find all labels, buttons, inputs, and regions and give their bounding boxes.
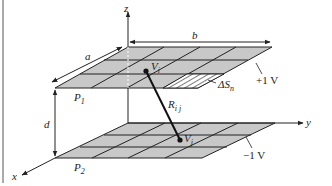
dimension-b-label: b <box>192 29 198 41</box>
plate-p2-label: P2 <box>73 161 85 176</box>
point-vi <box>143 68 148 73</box>
point-vj <box>177 137 182 142</box>
dimension-a-label: a <box>85 50 91 62</box>
z-axis-label: z <box>123 2 129 14</box>
top-potential-label: +1 V <box>256 74 278 86</box>
bottom-plate <box>55 123 275 158</box>
dimension-d-label: d <box>44 118 50 130</box>
area-element-label: ΔSn <box>217 78 234 93</box>
x-axis <box>22 158 55 175</box>
x-axis-label: x <box>11 170 17 182</box>
diagram-canvas: z y x a b d P1 P2 +1 V −1 V Vi Vj Ri j Δ… <box>0 0 332 186</box>
distance-rij-label: Ri j <box>167 98 182 113</box>
capacitor-diagram: z y x a b d P1 P2 +1 V −1 V Vi Vj Ri j Δ… <box>0 0 332 186</box>
bottom-potential-label: −1 V <box>243 149 265 161</box>
y-axis-label: y <box>305 116 311 128</box>
plate-p1-label: P1 <box>73 91 85 106</box>
